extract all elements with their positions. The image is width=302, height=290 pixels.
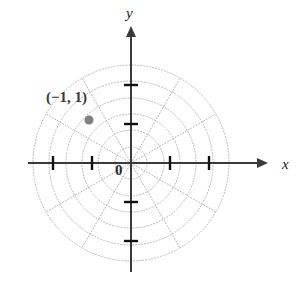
polar-plot-svg [0,0,302,290]
axis-lines [28,26,268,272]
x-axis-label: x [282,157,289,172]
origin-label: 0 [115,163,123,178]
y-axis-label: y [126,6,133,21]
data-point-label: (−1, 1) [46,90,87,105]
polar-plot-figure: y x 0 (−1, 1) [0,0,302,290]
data-point-marker [85,116,94,125]
